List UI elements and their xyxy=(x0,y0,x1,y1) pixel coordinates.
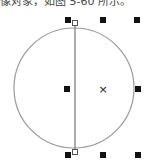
bottom-node[interactable] xyxy=(73,150,78,155)
handle-bottom-left[interactable] xyxy=(65,152,71,158)
center-marker-icon: × xyxy=(98,83,107,96)
handle-top-right[interactable] xyxy=(134,17,140,23)
handle-middle-right[interactable] xyxy=(135,86,141,92)
selection-canvas: × xyxy=(0,0,155,166)
circle-shape[interactable] xyxy=(14,28,134,148)
handle-top-center[interactable] xyxy=(100,17,106,23)
handle-top-left[interactable] xyxy=(65,17,71,23)
handle-middle-left[interactable] xyxy=(64,86,70,92)
handle-bottom-center[interactable] xyxy=(100,152,106,158)
top-node[interactable] xyxy=(73,21,78,26)
handle-bottom-right[interactable] xyxy=(135,152,141,158)
